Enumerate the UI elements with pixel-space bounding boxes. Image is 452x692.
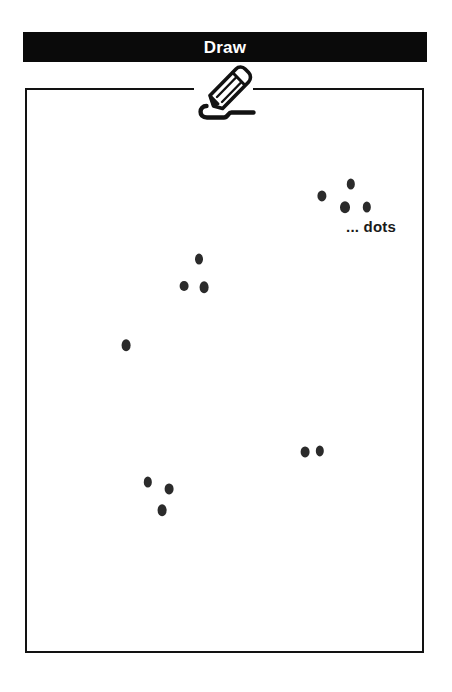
- scatter-dot: [195, 254, 203, 265]
- scatter-dot: [316, 445, 324, 456]
- scatter-dot: [122, 339, 131, 351]
- window-title-bar: Draw: [23, 32, 427, 62]
- window-title: Draw: [204, 39, 246, 56]
- scatter-dot: [340, 201, 350, 213]
- scatter-dot: [200, 281, 209, 293]
- scatter-dot: [180, 281, 189, 291]
- pencil-draw-icon[interactable]: [192, 62, 258, 124]
- scatter-dot: [347, 179, 355, 190]
- dot-field: [25, 88, 424, 653]
- scatter-dot: [317, 190, 326, 201]
- draw-page: Draw ... dots: [0, 0, 452, 692]
- scatter-dot: [301, 446, 310, 457]
- scatter-dot: [158, 504, 167, 516]
- scatter-dot: [165, 483, 174, 494]
- drawing-canvas[interactable]: ... dots: [25, 88, 424, 653]
- scatter-dot: [144, 477, 152, 488]
- scatter-dot: [363, 202, 371, 213]
